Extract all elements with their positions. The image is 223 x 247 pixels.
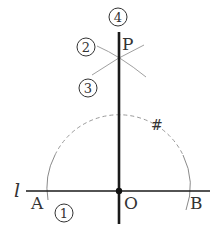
- point-o-dot: [116, 188, 122, 194]
- construction-diagram: l A B O P # 1 2 3 4: [0, 0, 223, 247]
- point-p-label: P: [122, 34, 133, 54]
- svg-text:4: 4: [114, 10, 122, 25]
- point-b-label: B: [190, 193, 203, 213]
- step-2-badge: 2: [77, 38, 95, 56]
- svg-text:1: 1: [60, 206, 68, 221]
- mark-label: #: [151, 117, 163, 133]
- point-o-label: O: [124, 193, 138, 213]
- step-1-badge: 1: [55, 204, 73, 222]
- line-l-label: l: [14, 179, 20, 201]
- svg-text:2: 2: [82, 40, 90, 55]
- arc-solid-left: [47, 155, 55, 200]
- step-3-badge: 3: [79, 79, 97, 97]
- step-4-badge: 4: [109, 8, 127, 26]
- svg-text:3: 3: [84, 81, 92, 96]
- point-a-label: A: [30, 193, 44, 213]
